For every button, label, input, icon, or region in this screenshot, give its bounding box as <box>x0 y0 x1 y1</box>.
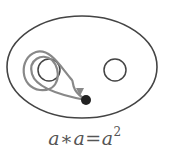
var-a: a <box>48 127 60 149</box>
var-a: a <box>102 127 114 149</box>
equation-caption: a∗a=a2 <box>0 127 170 149</box>
equals-sign: = <box>85 127 101 149</box>
hole-right <box>104 59 126 81</box>
var-a: a <box>74 127 86 149</box>
operator: ∗ <box>60 127 73 149</box>
base-point <box>81 95 91 105</box>
torus-diagram <box>0 0 170 125</box>
loop-path <box>24 51 86 100</box>
exponent: 2 <box>114 125 122 139</box>
